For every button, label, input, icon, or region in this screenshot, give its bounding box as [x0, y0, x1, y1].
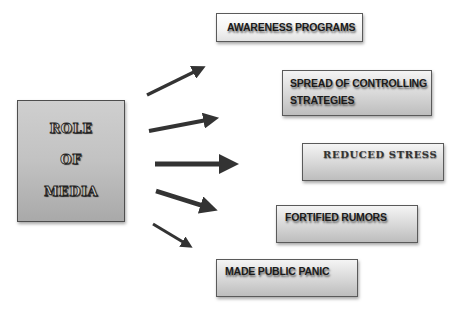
fortified-rumors-box: FORTIFIED RUMORS — [276, 205, 418, 243]
spread-label-line-2: STRATEGIES — [290, 92, 354, 108]
reduced-stress-label: REDUCED STRESS — [323, 147, 437, 163]
role-of-media-box: ROLE OF MEDIA — [17, 100, 125, 222]
reduced-stress-box: REDUCED STRESS — [302, 143, 444, 181]
arrow-to-panic — [153, 224, 188, 245]
awareness-programs-label: AWARENESS PROGRAMS — [227, 19, 355, 35]
made-public-panic-box: MADE PUBLIC PANIC — [216, 259, 358, 297]
center-line-2: OF — [60, 152, 82, 167]
spread-controlling-strategies-box: SPREAD OF CONTROLLING STRATEGIES — [282, 70, 432, 116]
arrow-to-spread — [149, 119, 212, 131]
made-public-panic-label: MADE PUBLIC PANIC — [225, 263, 329, 279]
arrow-to-awareness — [147, 69, 200, 95]
awareness-programs-box: AWARENESS PROGRAMS — [216, 13, 363, 42]
arrow-to-fortified — [156, 191, 210, 208]
center-line-3: MEDIA — [44, 184, 98, 199]
spread-label-line-1: SPREAD OF CONTROLLING — [290, 75, 427, 91]
fortified-rumors-label: FORTIFIED RUMORS — [285, 209, 387, 225]
center-line-1: ROLE — [49, 121, 92, 136]
